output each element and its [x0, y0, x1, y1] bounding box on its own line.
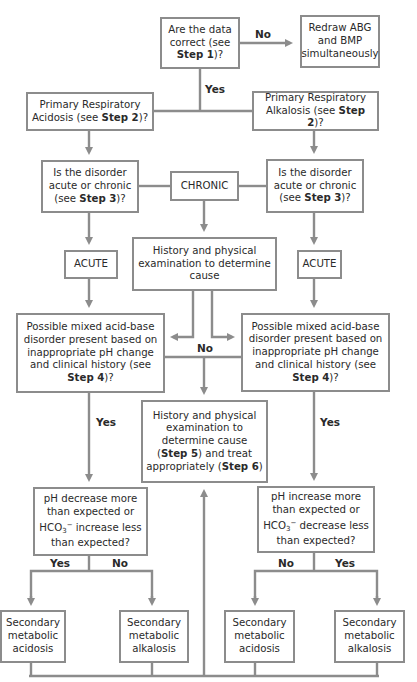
edge-label-yes-bottom-left: Yes [50, 557, 70, 569]
chronic-box: CHRONIC [170, 171, 239, 201]
secondary-metabolic-acidosis-left-box: Secondary metabolic acidosis [0, 610, 66, 663]
edge-label-yes-bottom-right: Yes [335, 557, 355, 569]
acute-chronic-right-text: Is the disorder acute or chronic (see St… [271, 167, 359, 205]
edge-label-yes-right: Yes [320, 416, 340, 428]
acute-right-box: ACUTE [297, 250, 342, 279]
secondary-metabolic-alkalosis-left-text: Secondary metabolic alkalosis [124, 617, 184, 655]
edge-label-no-bottom-right: No [278, 557, 294, 569]
ph-increase-text: pH increase more than expected or HCO3− … [262, 491, 370, 548]
chronic-text: CHRONIC [181, 180, 229, 193]
secondary-metabolic-acidosis-left-text: Secondary metabolic acidosis [5, 617, 61, 655]
secondary-metabolic-acidosis-right-text: Secondary metabolic acidosis [229, 617, 290, 655]
history-treat-box: History and physical examination to dete… [141, 400, 268, 483]
acute-left-text: ACUTE [74, 258, 108, 271]
edge-label-yes-left: Yes [96, 416, 116, 428]
ph-increase-box: pH increase more than expected or HCO3− … [257, 486, 375, 553]
redraw-box: Redraw ABG and BMP simultaneously [300, 15, 380, 68]
resp-alkalosis-box: Primary Respiratory Alkalosis (see Step … [252, 91, 379, 131]
acute-chronic-left-box: Is the disorder acute or chronic (see St… [41, 160, 139, 213]
resp-acidosis-text: Primary Respiratory Acidosis (see Step 2… [31, 99, 149, 125]
mixed-disorder-left-text: Possible mixed acid-base disorder presen… [21, 321, 160, 385]
ph-decrease-box: pH decrease more than expected or HCO3− … [33, 487, 148, 556]
mixed-disorder-right-text: Possible mixed acid-base disorder presen… [246, 321, 385, 385]
edge-label-no-middle: No [197, 342, 213, 354]
data-correct-text: Are the data correct (see Step 1)? [165, 24, 235, 62]
secondary-metabolic-alkalosis-left-box: Secondary metabolic alkalosis [119, 610, 189, 663]
resp-acidosis-box: Primary Respiratory Acidosis (see Step 2… [26, 92, 154, 131]
ph-decrease-text: pH decrease more than expected or HCO3− … [38, 493, 143, 550]
data-correct-box: Are the data correct (see Step 1)? [160, 17, 240, 69]
acute-chronic-right-box: Is the disorder acute or chronic (see St… [266, 159, 364, 213]
history-treat-text: History and physical examination to dete… [146, 410, 263, 474]
redraw-text: Redraw ABG and BMP simultaneously [301, 22, 378, 60]
mixed-disorder-left-box: Possible mixed acid-base disorder presen… [16, 313, 165, 393]
history-cause-text: History and physical examination to dete… [137, 245, 272, 283]
edge-label-no-top: No [255, 28, 271, 40]
edge-label-yes-top: Yes [205, 83, 225, 95]
secondary-metabolic-alkalosis-right-box: Secondary metabolic alkalosis [334, 610, 405, 663]
mixed-disorder-right-box: Possible mixed acid-base disorder presen… [241, 313, 390, 392]
acute-right-text: ACUTE [302, 258, 336, 271]
history-cause-box: History and physical examination to dete… [132, 237, 277, 291]
secondary-metabolic-alkalosis-right-text: Secondary metabolic alkalosis [339, 617, 400, 655]
acute-chronic-left-text: Is the disorder acute or chronic (see St… [46, 167, 134, 205]
secondary-metabolic-acidosis-right-box: Secondary metabolic acidosis [224, 610, 295, 663]
edge-label-no-bottom-left: No [112, 557, 128, 569]
acute-left-box: ACUTE [64, 250, 118, 279]
resp-alkalosis-text: Primary Respiratory Alkalosis (see Step … [257, 92, 374, 130]
